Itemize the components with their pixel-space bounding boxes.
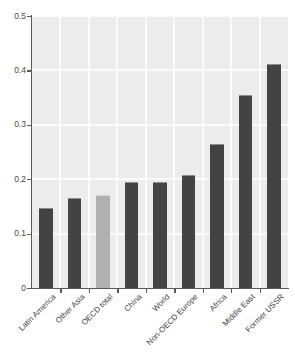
x-tick-label: Latin America [18, 293, 58, 333]
bar [125, 182, 139, 288]
y-tick-label: 0 [0, 284, 26, 293]
x-tick-label-text: Africa [208, 293, 228, 313]
x-tick-mark [60, 289, 61, 293]
x-tick-mark [203, 289, 204, 293]
bar [210, 144, 224, 288]
x-tick-label: Non-OECD Europe [146, 293, 200, 347]
x-tick-label: Africa [208, 293, 228, 313]
x-tick-mark [231, 289, 232, 293]
x-tick-label-text: Latin America [18, 293, 58, 333]
bar [153, 182, 167, 288]
y-tick-mark [27, 70, 32, 71]
x-tick-label: World [151, 293, 171, 313]
bar [39, 208, 53, 289]
y-tick-mark [27, 234, 32, 235]
x-tick-label-text: China [123, 293, 143, 313]
bar [239, 95, 253, 288]
bar [68, 198, 82, 288]
x-tick-label-text: Non-OECD Europe [146, 293, 200, 347]
bar [96, 195, 110, 288]
bar [267, 64, 281, 288]
bar [182, 175, 196, 288]
y-tick-mark [27, 16, 32, 17]
plot-area [32, 16, 288, 288]
y-tick-label: 0.1 [0, 229, 26, 238]
x-axis-line [31, 288, 289, 289]
y-axis-line [31, 15, 32, 289]
x-tick-mark [260, 289, 261, 293]
x-tick-mark [117, 289, 118, 293]
y-tick-label: 0.5 [0, 12, 26, 21]
y-tick-label: 0.2 [0, 175, 26, 184]
y-tick-mark [27, 179, 32, 180]
x-tick-mark [146, 289, 147, 293]
bars-group [32, 16, 288, 288]
y-tick-label: 0.4 [0, 66, 26, 75]
x-tick-label-text: World [151, 293, 171, 313]
y-tick-label: 0.3 [0, 120, 26, 129]
bar-chart: 00.10.20.30.40.5 Latin AmericaOther Asia… [0, 0, 295, 362]
y-tick-mark [27, 125, 32, 126]
y-tick-mark [27, 288, 32, 289]
x-tick-mark [174, 289, 175, 293]
x-tick-label: China [123, 293, 143, 313]
x-tick-mark [89, 289, 90, 293]
